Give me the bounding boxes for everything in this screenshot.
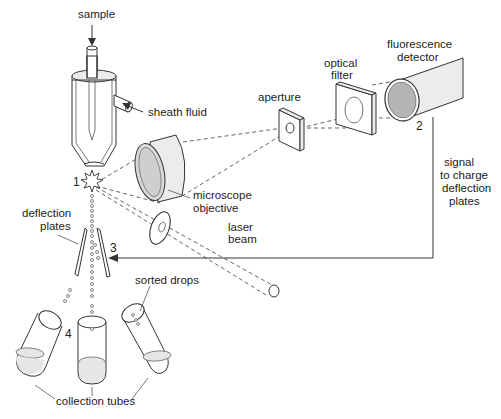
step-3: 3: [110, 241, 117, 255]
label-fluorescence-detector-1: fluorescence: [387, 38, 452, 50]
signal-arrow-icon: [108, 254, 118, 262]
starburst-icon: [81, 170, 103, 192]
label-signal-4: plates: [449, 195, 480, 207]
step-1: 1: [73, 175, 80, 189]
flow-cytometer-diagram: sample sheath fluid 1 microscope objecti…: [0, 0, 501, 419]
optical-filter: [336, 82, 376, 135]
label-microscope-objective-2: objective: [193, 202, 238, 214]
collection-tube-left: [16, 307, 65, 376]
collection-tube-center: [78, 316, 106, 384]
label-deflection-plates-1: deflection: [22, 207, 71, 219]
label-sorted-drops: sorted drops: [135, 274, 199, 286]
collection-tube-right: [119, 300, 172, 373]
label-microscope-objective-1: microscope: [193, 189, 252, 201]
label-optical-filter-2: filter: [331, 69, 353, 81]
interrogation-point: [81, 170, 103, 192]
label-optical-filter-1: optical: [324, 57, 357, 69]
label-collection-tubes: collection tubes: [56, 395, 136, 407]
label-sheath-fluid: sheath fluid: [148, 106, 207, 118]
laser-beam-end: [269, 285, 279, 297]
step-2: 2: [416, 119, 423, 133]
label-signal-3: deflection: [442, 182, 491, 194]
label-deflection-plates-2: plates: [40, 220, 71, 232]
label-aperture: aperture: [258, 91, 301, 103]
label-sample: sample: [78, 8, 115, 20]
flow-cell-nozzle: [72, 25, 134, 166]
label-signal-1: signal: [444, 156, 474, 168]
label-fluorescence-detector-2: detector: [397, 51, 439, 63]
sample-arrow-icon: [88, 38, 96, 46]
label-laser-1: laser: [228, 221, 253, 233]
step-4: 4: [65, 327, 72, 341]
aperture-plate: [279, 108, 304, 151]
label-laser-2: beam: [228, 233, 257, 245]
fluorescence-detector: [382, 58, 463, 123]
label-signal-2: to charge: [440, 169, 488, 181]
